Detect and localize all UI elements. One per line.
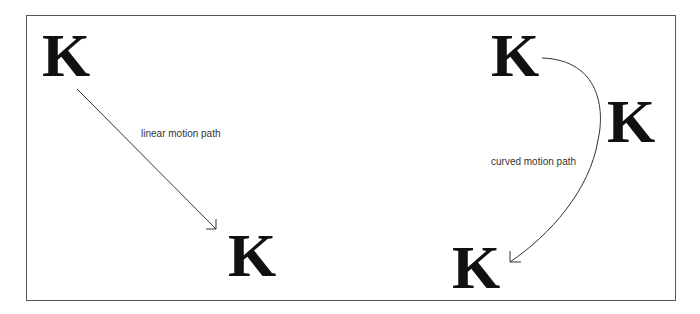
curved-start-letter-k: K <box>491 24 539 86</box>
curved-mid-letter-k: K <box>607 90 655 152</box>
curved-end-letter-k: K <box>452 236 500 298</box>
linear-start-letter-k: K <box>42 24 90 86</box>
linear-end-letter-k: K <box>228 224 276 286</box>
linear-motion-arrow <box>77 89 216 229</box>
linear-motion-label: linear motion path <box>141 128 221 139</box>
curved-motion-label: curved motion path <box>491 156 576 167</box>
motion-paths <box>0 0 700 314</box>
